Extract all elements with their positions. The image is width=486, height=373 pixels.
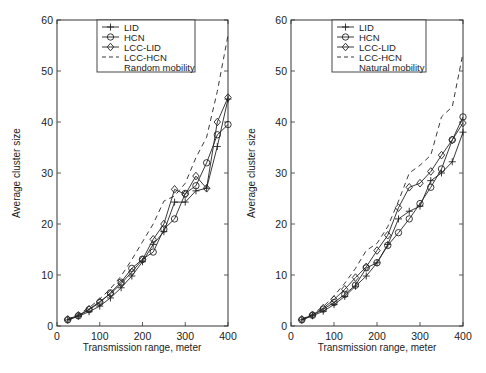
legend: LIDHCNLCC-LIDLCC-HCNRandom mobility bbox=[97, 20, 195, 73]
series-line bbox=[68, 98, 228, 320]
series-line bbox=[68, 125, 228, 320]
series-line bbox=[302, 123, 463, 319]
y-tick-label: 10 bbox=[275, 269, 287, 281]
figure-svg: 01002003004000102030405060Transmission r… bbox=[0, 0, 486, 373]
x-tick-label: 400 bbox=[219, 330, 237, 342]
series-lcc-hcn bbox=[68, 35, 228, 319]
series-line bbox=[68, 99, 228, 320]
x-tick-label: 100 bbox=[325, 330, 343, 342]
x-tick-label: 400 bbox=[454, 330, 472, 342]
series-line bbox=[68, 35, 228, 319]
x-tick-label: 300 bbox=[411, 330, 429, 342]
data-point-plus-marker bbox=[406, 208, 413, 215]
legend-annotation: Random mobility bbox=[124, 62, 195, 73]
x-tick-label: 200 bbox=[134, 330, 152, 342]
series-lcc-lid bbox=[64, 94, 231, 323]
x-axis-label: Transmission range, meter bbox=[318, 342, 437, 353]
data-point-plus-marker bbox=[214, 143, 221, 150]
x-tick-label: 200 bbox=[368, 330, 386, 342]
x-tick-label: 300 bbox=[176, 330, 194, 342]
y-tick-label: 30 bbox=[275, 167, 287, 179]
data-point-plus-marker bbox=[395, 215, 402, 222]
y-tick-label: 30 bbox=[41, 167, 53, 179]
y-tick-label: 10 bbox=[41, 269, 53, 281]
y-tick-label: 0 bbox=[281, 320, 287, 332]
y-tick-label: 50 bbox=[275, 65, 287, 77]
chart-natural-mobility: 01002003004000102030405060Transmission r… bbox=[246, 14, 472, 353]
series-line bbox=[302, 132, 463, 320]
series-lid bbox=[298, 129, 466, 324]
y-tick-label: 0 bbox=[47, 320, 53, 332]
y-tick-label: 20 bbox=[41, 218, 53, 230]
series-line bbox=[302, 117, 463, 320]
y-axis-label: Average cluster size bbox=[11, 128, 22, 218]
data-point-plus-marker bbox=[460, 129, 467, 136]
legend: LIDHCNLCC-LIDLCC-HCNNatural mobility bbox=[332, 20, 426, 73]
y-tick-label: 40 bbox=[41, 116, 53, 128]
y-tick-label: 50 bbox=[41, 65, 53, 77]
x-axis-label: Transmission range, meter bbox=[83, 342, 202, 353]
series-hcn bbox=[64, 121, 231, 323]
series-lid bbox=[64, 96, 231, 324]
x-tick-label: 0 bbox=[288, 330, 294, 342]
series-hcn bbox=[299, 114, 467, 323]
x-tick-label: 0 bbox=[54, 330, 60, 342]
series-lcc-lid bbox=[299, 119, 467, 323]
y-tick-label: 40 bbox=[275, 116, 287, 128]
y-tick-label: 20 bbox=[275, 218, 287, 230]
x-tick-label: 100 bbox=[91, 330, 109, 342]
series-lcc-hcn bbox=[302, 53, 463, 319]
figure: 01002003004000102030405060Transmission r… bbox=[0, 0, 486, 373]
y-axis-label: Average cluster size bbox=[246, 128, 257, 218]
chart-random-mobility: 01002003004000102030405060Transmission r… bbox=[11, 14, 237, 353]
y-tick-label: 60 bbox=[275, 14, 287, 26]
data-point-plus-marker bbox=[171, 199, 178, 206]
legend-annotation: Natural mobility bbox=[359, 62, 425, 73]
series-line bbox=[302, 53, 463, 319]
y-tick-label: 60 bbox=[41, 14, 53, 26]
